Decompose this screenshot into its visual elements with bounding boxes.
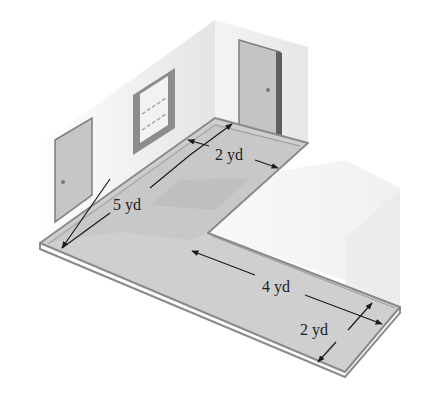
label-4yd: 4 yd: [262, 278, 290, 296]
label-2yd-top: 2 yd: [215, 146, 243, 164]
right-door-icon: [239, 40, 282, 138]
label-5yd: 5 yd: [113, 196, 141, 214]
diagram-canvas: 5 yd 2 yd 4 yd 2 yd: [0, 0, 423, 405]
label-2yd-lower: 2 yd: [300, 321, 328, 339]
